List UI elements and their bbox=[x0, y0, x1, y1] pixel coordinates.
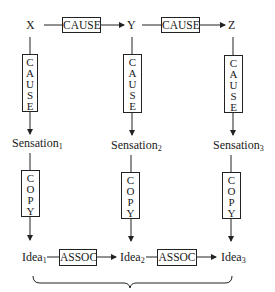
assoc-box-1-2: ASSOC bbox=[59, 249, 97, 266]
assoc-label: ASSOC bbox=[60, 251, 97, 263]
vertical-copy-box-1: C O P Y bbox=[21, 170, 40, 217]
subscript: 3 bbox=[242, 256, 246, 265]
letter: Y bbox=[228, 208, 236, 219]
vertical-cause-box-1: C A U S E bbox=[22, 54, 38, 112]
cause-label: CAUSE bbox=[162, 19, 200, 31]
node-sensation-2: Sensation2 bbox=[111, 138, 162, 156]
node-x-label: X bbox=[26, 18, 35, 32]
node-sensation-3: Sensation3 bbox=[213, 138, 264, 156]
letter: Y bbox=[27, 206, 35, 217]
idea-label: Idea bbox=[120, 250, 141, 264]
letter: E bbox=[27, 101, 34, 112]
node-idea-3: Idea3 bbox=[221, 250, 246, 268]
cause-box-y-z: CAUSE bbox=[161, 17, 200, 33]
subscript: 2 bbox=[141, 256, 145, 265]
node-idea-1: Idea1 bbox=[22, 250, 47, 268]
vertical-copy-box-3: C O P Y bbox=[222, 172, 241, 219]
letter: Y bbox=[127, 208, 135, 219]
node-sensation-1: Sensation1 bbox=[12, 136, 63, 154]
idea-label: Idea bbox=[22, 250, 43, 264]
node-z: Z bbox=[228, 18, 235, 32]
assoc-box-2-3: ASSOC bbox=[157, 249, 197, 266]
subscript: 1 bbox=[43, 256, 47, 265]
vertical-cause-box-2: C A U S E bbox=[123, 54, 142, 113]
idea-label: Idea bbox=[221, 250, 242, 264]
vertical-copy-box-2: C O P Y bbox=[121, 172, 140, 219]
letter: E bbox=[230, 102, 237, 113]
node-y-label: Y bbox=[127, 18, 136, 32]
causation-association-diagram: X Y Z CAUSE CAUSE C A U S E C A U S E C … bbox=[0, 0, 275, 292]
cause-label: CAUSE bbox=[63, 19, 101, 31]
node-idea-2: Idea2 bbox=[120, 250, 145, 268]
sensation-label: Sensation bbox=[12, 136, 59, 150]
node-x: X bbox=[26, 18, 35, 32]
vertical-cause-box-3: C A U S E bbox=[224, 55, 243, 113]
cause-box-x-y: CAUSE bbox=[62, 17, 101, 33]
subscript: 3 bbox=[260, 144, 264, 153]
node-y: Y bbox=[127, 18, 136, 32]
brace-icon bbox=[33, 276, 232, 288]
letter: E bbox=[129, 101, 136, 112]
sensation-label: Sensation bbox=[213, 138, 260, 152]
subscript: 1 bbox=[59, 142, 63, 151]
subscript: 2 bbox=[158, 144, 162, 153]
node-z-label: Z bbox=[228, 18, 235, 32]
sensation-label: Sensation bbox=[111, 138, 158, 152]
assoc-label: ASSOC bbox=[158, 251, 195, 263]
